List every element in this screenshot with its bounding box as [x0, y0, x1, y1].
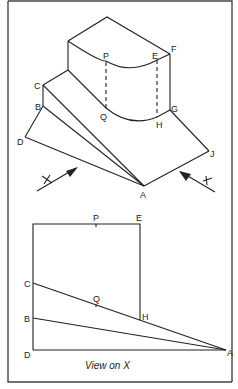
label-e: E — [136, 213, 142, 223]
edge-ca — [43, 85, 144, 186]
outline-left — [33, 224, 140, 350]
edge-ja — [144, 151, 209, 186]
label-c: C — [24, 279, 31, 289]
label-b: B — [35, 102, 41, 112]
label-g: G — [171, 104, 178, 114]
view-arrow-y — [179, 171, 215, 192]
label-h: H — [156, 120, 163, 130]
label-q: Q — [93, 294, 100, 304]
technical-drawing: P E F C B Q H G D J A P E C Q H B D A Vi… — [0, 0, 238, 389]
edge-to-c — [43, 70, 68, 85]
label-j: J — [210, 149, 215, 159]
edge-gj — [170, 110, 209, 151]
drawing-border — [8, 1, 232, 382]
block-top-edge — [68, 17, 170, 54]
edge-da — [25, 137, 144, 186]
label-a: A — [227, 348, 233, 358]
block-base-left — [68, 70, 106, 108]
view-on-x: P E C Q H B D A View on X — [24, 213, 233, 371]
caption-view-on-x: View on X — [85, 360, 130, 371]
label-e: E — [152, 51, 158, 61]
label-p: P — [93, 213, 99, 223]
label-c: C — [34, 81, 41, 91]
isometric-view: P E F C B Q H G D J A — [17, 17, 215, 200]
label-a: A — [140, 190, 146, 200]
label-q: Q — [100, 112, 107, 122]
label-d: D — [17, 137, 24, 147]
edge-ba — [43, 106, 144, 186]
label-b: B — [24, 314, 30, 324]
line-ca — [33, 283, 226, 350]
curve-bottom-qh — [106, 108, 170, 121]
label-h: H — [142, 312, 149, 322]
label-p: P — [103, 51, 109, 61]
line-ba — [33, 318, 226, 350]
label-d: D — [24, 350, 31, 360]
view-arrow-x — [37, 167, 78, 191]
label-f: F — [171, 44, 177, 54]
